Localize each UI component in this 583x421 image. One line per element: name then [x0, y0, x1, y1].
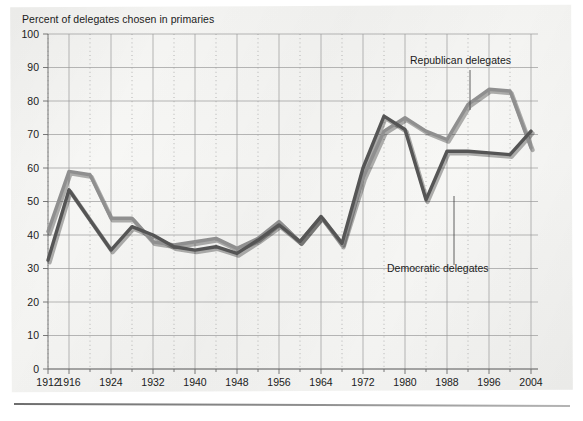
y-tick-label: 30 — [27, 262, 39, 274]
annotation-group: Republican delegatesDemocratic delegates — [387, 54, 511, 274]
data-series-group — [48, 89, 533, 262]
y-tick-label: 20 — [27, 296, 39, 308]
y-tick-label: 50 — [27, 195, 39, 207]
y-tick-label: 90 — [27, 61, 39, 73]
y-tick-label: 80 — [27, 95, 39, 107]
x-tick-label: 1988 — [435, 376, 459, 388]
y-tick-label: 70 — [27, 128, 39, 140]
x-tick-label: 1972 — [351, 376, 375, 388]
axis-tickmarks — [43, 34, 538, 374]
x-tick-label: 1964 — [309, 376, 333, 388]
line-chart: 0102030405060708090100 19121916192419321… — [0, 0, 583, 421]
annotation-democratic: Democratic delegates — [387, 262, 489, 274]
x-tick-label: 1956 — [267, 376, 291, 388]
annotation-republican: Republican delegates — [410, 54, 511, 66]
x-tick-label: 1940 — [183, 376, 207, 388]
x-tick-label: 1924 — [99, 376, 123, 388]
x-tick-label: 1932 — [141, 376, 165, 388]
y-tick-label: 10 — [27, 329, 39, 341]
y-axis-labels: 0102030405060708090100 — [21, 28, 39, 375]
series-shadow-democratic — [50, 118, 533, 262]
x-tick-label: 1948 — [225, 376, 249, 388]
y-tick-label: 40 — [27, 229, 39, 241]
gridlines — [48, 34, 538, 369]
y-tick-label: 60 — [27, 162, 39, 174]
x-axis-labels: 1912191619241932194019481956196419721980… — [36, 376, 543, 388]
x-tick-label: 1916 — [57, 376, 81, 388]
chart-page: Percent of delegates chosen in primaries… — [0, 0, 583, 421]
y-tick-label: 100 — [21, 28, 39, 40]
series-line-democratic[interactable] — [48, 116, 531, 260]
y-tick-label: 0 — [33, 363, 39, 375]
x-tick-label: 1996 — [477, 376, 501, 388]
x-tick-label: 1912 — [36, 376, 60, 388]
x-tick-label: 2004 — [519, 376, 543, 388]
series-line-republican[interactable] — [48, 89, 531, 248]
x-tick-label: 1980 — [393, 376, 417, 388]
